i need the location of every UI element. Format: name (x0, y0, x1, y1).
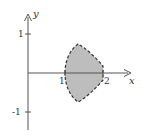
x-tick-label-1: 1 (59, 76, 65, 86)
y-tick-label-neg1: -1 (12, 107, 21, 117)
y-tick-label-1: 1 (18, 29, 24, 39)
x-tick-label-2: 2 (104, 76, 110, 86)
y-axis-label: y (32, 8, 39, 19)
region-diagram: y x 1 2 1 -1 (0, 0, 142, 139)
x-axis-label: x (129, 75, 135, 86)
